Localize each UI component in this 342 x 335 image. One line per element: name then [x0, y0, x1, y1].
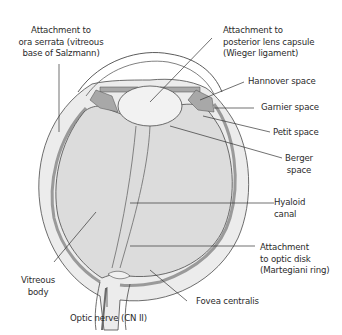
- label-posterior-lens-capsule: Attachment to posterior lens capsule (Wi…: [223, 25, 314, 60]
- label-berger-space: Berger space: [279, 153, 319, 176]
- label-ora-serrata: Attachment to ora serrata (vitreous base…: [6, 25, 116, 60]
- label-fovea-centralis: Fovea centralis: [196, 296, 259, 308]
- label-petit-space: Petit space: [273, 127, 319, 139]
- eye-vitreous-diagram: Attachment to ora serrata (vitreous base…: [0, 0, 342, 335]
- label-garnier-space: Garnier space: [261, 102, 319, 114]
- lens: [118, 86, 182, 126]
- label-hannover-space: Hannover space: [248, 76, 316, 88]
- label-vitreous-body: Vitreous body: [16, 275, 60, 298]
- label-optic-nerve: Optic nerve (CN II): [70, 313, 147, 325]
- label-optic-disk: Attachment to optic disk (Martegiani rin…: [260, 242, 330, 277]
- label-hyaloid-canal: Hyaloid canal: [274, 197, 305, 220]
- vitreous-body-shape: [56, 104, 232, 278]
